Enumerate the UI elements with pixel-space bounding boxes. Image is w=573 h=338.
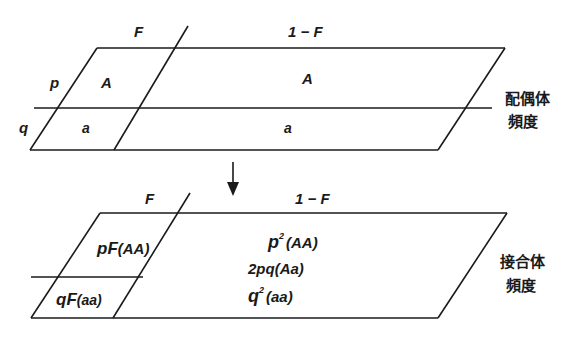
random-a-cell: a — [284, 120, 292, 136]
top-1-minus-F-label: 1 − F — [288, 23, 323, 40]
p-row-label: p — [49, 74, 59, 91]
bottom-F-label: F — [145, 190, 155, 207]
random-aa-base: q — [248, 286, 259, 306]
q-row-label: q — [19, 119, 28, 136]
inbred-AA-genotype: (AA) — [118, 240, 150, 257]
zygote-frequency-panel: F 1 − F pF(AA) qF(aa) p2(AA) 2pq(Aa) q2(… — [31, 190, 546, 318]
random-aa-exponent: 2 — [258, 285, 264, 295]
inbred-aa-cell: qF(aa) — [56, 290, 102, 309]
top-panel-F-divider — [114, 26, 188, 150]
zygote-label-line1: 接合体 — [500, 253, 546, 271]
gamete-frequency-panel: F 1 − F p q A a A a 配偶体 頻度 — [19, 23, 551, 150]
inbred-a-cell: a — [82, 120, 90, 136]
inbred-A-cell: A — [100, 74, 112, 91]
random-aa-cell: q2(aa) — [248, 285, 293, 306]
inbred-aa-genotype: (aa) — [77, 292, 102, 308]
random-AA-genotype: (AA) — [286, 234, 318, 251]
top-panel-right-edge — [438, 48, 505, 150]
inbred-AA-cell: pF(AA) — [96, 239, 149, 258]
down-arrow-icon — [227, 162, 239, 196]
random-Aa-cell: 2pq(Aa) — [247, 260, 304, 277]
random-AA-cell: p2(AA) — [267, 231, 318, 252]
inbred-aa-coef: qF — [56, 290, 77, 309]
random-Aa-genotype: (Aa) — [275, 260, 304, 277]
inbred-AA-coef: pF — [96, 239, 118, 258]
bottom-panel-right-edge — [438, 213, 507, 318]
zygote-label-line2: 頻度 — [506, 277, 537, 295]
gamete-label-line2: 頻度 — [508, 113, 539, 131]
gamete-label-line1: 配偶体 — [505, 90, 551, 108]
random-aa-genotype: (aa) — [266, 288, 293, 305]
random-A-cell: A — [301, 70, 313, 87]
bottom-1-minus-F-label: 1 − F — [295, 190, 330, 207]
top-F-label: F — [134, 23, 144, 40]
random-AA-exponent: 2 — [278, 231, 284, 241]
gamete-zygote-diagram: F 1 − F p q A a A a 配偶体 頻度 F 1 − F pF(AA… — [0, 0, 573, 338]
random-Aa-coef: 2pq — [247, 260, 275, 277]
random-AA-base: p — [267, 232, 279, 252]
